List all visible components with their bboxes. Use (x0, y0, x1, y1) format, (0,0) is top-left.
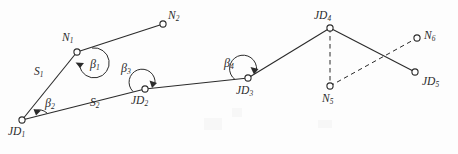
node-label-jd4: JD4 (314, 10, 331, 22)
edge-jd3-jd4 (248, 28, 330, 78)
node-label-jd5: JD5 (422, 76, 439, 88)
node-label-jd2: JD2 (131, 95, 148, 107)
node-label-n1: N1 (62, 32, 73, 44)
node-label-n6: N6 (424, 30, 435, 42)
angle-arrow-beta1 (76, 63, 85, 69)
traverse-linework (0, 0, 458, 154)
node-jd3 (245, 75, 251, 81)
edge-jd4-jd5 (330, 28, 415, 72)
edge-n1-n2 (77, 24, 163, 52)
edge-n5-n6 (330, 38, 417, 86)
angle-label-beta2: β2 (45, 97, 55, 110)
node-jd4 (327, 25, 333, 31)
node-n2 (160, 21, 166, 27)
node-label-n5: N5 (322, 93, 333, 105)
node-n1 (74, 49, 80, 55)
node-n6 (414, 35, 420, 41)
node-label-n2: N2 (168, 10, 179, 22)
angle-label-beta3: β3 (121, 62, 131, 75)
segment-label-s2: S2 (90, 97, 99, 109)
node-jd5 (412, 69, 418, 75)
node-jd2 (142, 86, 148, 92)
node-n5 (327, 83, 333, 89)
node-label-jd1: JD1 (8, 126, 25, 138)
segment-label-s1: S1 (34, 66, 43, 78)
angle-arrow-beta3 (150, 81, 158, 89)
edge-jd2-jd3 (145, 78, 248, 89)
angle-arrow-beta4 (251, 67, 259, 75)
edge-jd1-jd2 (22, 89, 145, 120)
traverse-figure: JD1 N1 N2 JD2 JD3 JD4 N5 N6 JD5 S1 S2 β1… (0, 0, 458, 154)
angle-label-beta4: β4 (224, 57, 234, 70)
angle-label-beta1: β1 (90, 58, 100, 71)
node-jd1 (19, 117, 25, 123)
node-label-jd3: JD3 (236, 85, 253, 97)
